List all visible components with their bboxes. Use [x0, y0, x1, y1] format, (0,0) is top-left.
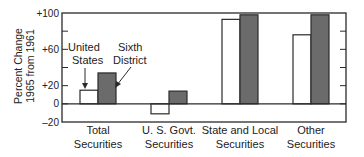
- y-tick-label: 0: [53, 98, 59, 109]
- bar-chart: ‒200+20+60+100 TotalSecuritiesU. S. Govt…: [0, 0, 364, 157]
- legend-united-states: United: [68, 41, 100, 53]
- category-label: State and Local: [202, 124, 278, 136]
- category-label: Securities: [287, 138, 336, 150]
- category-label: Securities: [216, 138, 265, 150]
- bar-united-states: [151, 104, 169, 114]
- legend-sixth-district: Sixth: [118, 41, 142, 53]
- bar-sixth-district: [311, 15, 329, 104]
- bar-united-states: [222, 19, 240, 103]
- bar-sixth-district: [169, 91, 187, 104]
- category-label: U. S. Govt.: [142, 124, 196, 136]
- y-axis-title-line: Percent Change: [12, 28, 24, 104]
- bar-united-states: [80, 90, 98, 104]
- y-tick-label: +60: [42, 44, 59, 55]
- category-label: Total: [86, 124, 109, 136]
- y-tick-label: +20: [42, 80, 59, 91]
- bar-sixth-district: [240, 15, 258, 104]
- category-label: Securities: [145, 138, 194, 150]
- y-tick-label: +100: [36, 8, 59, 19]
- category-label: Securities: [74, 138, 123, 150]
- y-axis-title-line: 1965 from 1961: [24, 29, 36, 103]
- category-labels: TotalSecuritiesU. S. Govt.SecuritiesStat…: [74, 124, 336, 150]
- bar-sixth-district: [98, 73, 116, 104]
- arrow-sixth-district: [117, 67, 131, 85]
- category-label: Other: [297, 124, 325, 136]
- legend-sixth-district: District: [113, 54, 147, 66]
- arrow-head-icon: [82, 83, 88, 89]
- y-axis-title: Percent Change1965 from 1961: [12, 28, 36, 104]
- arrow-head-icon: [115, 81, 121, 88]
- y-tick-label: ‒20: [42, 117, 59, 128]
- bar-united-states: [293, 35, 311, 104]
- legend-united-states: States: [72, 54, 104, 66]
